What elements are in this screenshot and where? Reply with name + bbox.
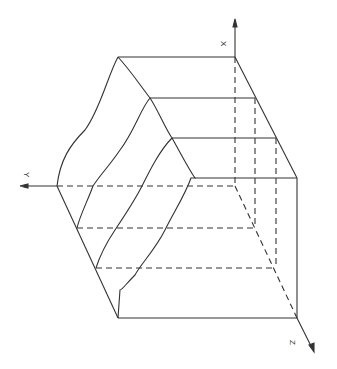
y-axis-arrow-icon <box>20 184 28 188</box>
x-axis-arrow-icon <box>233 19 237 27</box>
right-slant-edge <box>235 57 297 178</box>
z-axis-label: Z <box>288 340 297 345</box>
y-axis-label: Y <box>22 172 31 178</box>
surface-curve-outer <box>57 57 118 186</box>
z-axis <box>297 318 312 348</box>
diagram-canvas: X Y Z <box>0 0 337 369</box>
surface-curve-2 <box>96 98 172 268</box>
z-axis-dashed <box>235 186 297 318</box>
z-axis-arrow-icon <box>309 343 314 352</box>
left-slant-edge <box>57 186 118 318</box>
x-axis-label: X <box>219 41 228 47</box>
surface-curve-1 <box>77 57 150 228</box>
